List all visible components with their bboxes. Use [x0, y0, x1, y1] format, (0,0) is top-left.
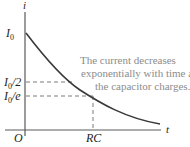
x-axis-label: t — [166, 123, 170, 135]
annotation-line-1: The current decreases — [80, 54, 176, 66]
rc-label: RC — [85, 131, 102, 145]
current-decay-diagram: i t O I0 I0/2 I0/e RC The current decrea… — [0, 0, 190, 147]
origin-label: O — [14, 131, 23, 145]
y-axis-label: i — [23, 0, 26, 11]
i0-label: I0 — [5, 26, 14, 42]
annotation-line-2: exponentially with time as — [81, 67, 190, 79]
annotation-line-3: the capacitor charges. — [95, 80, 190, 92]
i0-over-e-label: I0/e — [3, 89, 21, 105]
